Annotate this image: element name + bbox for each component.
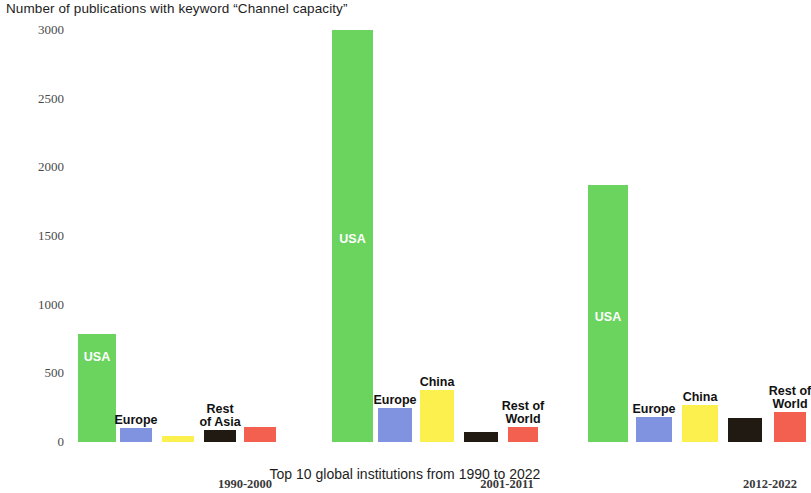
bar-label-europe: Europe xyxy=(373,394,416,407)
y-axis: 0 500 1000 1500 2000 2500 3000 xyxy=(0,30,64,442)
y-tick-500: 500 xyxy=(2,365,64,381)
rest-of-asia-line2: of Asia xyxy=(199,415,240,429)
plot-area: USA Europe Restof Asia 1990-2000 USA Eur… xyxy=(70,30,806,442)
bar-group-1990-2000: USA Europe Restof Asia xyxy=(76,30,266,442)
bar-label-usa: USA xyxy=(339,233,365,246)
bar-label-usa: USA xyxy=(84,351,110,364)
bar-label-europe: Europe xyxy=(114,414,157,427)
bar-group-2012-2022: USA Europe China Rest ofWorld xyxy=(588,30,798,442)
bar-china-2012-2022[interactable]: China xyxy=(682,405,718,442)
bar-rest-of-world-1990-2000[interactable] xyxy=(244,427,276,442)
chart-title: Number of publications with keyword “Cha… xyxy=(6,1,348,16)
bar-rest-of-asia-1990-2000[interactable]: Restof Asia xyxy=(204,430,236,442)
bar-europe-2012-2022[interactable]: Europe xyxy=(636,417,672,442)
bar-label-china: China xyxy=(420,376,455,389)
y-tick-2500: 2500 xyxy=(2,91,64,107)
bar-europe-1990-2000[interactable]: Europe xyxy=(120,428,152,442)
rest-of-world-line2: World xyxy=(505,412,540,426)
y-tick-1500: 1500 xyxy=(2,228,64,244)
bar-china-2001-2011[interactable]: China xyxy=(420,390,454,442)
bar-europe-2001-2011[interactable]: Europe xyxy=(378,408,412,442)
bar-rest-of-asia-2012-2022[interactable] xyxy=(728,418,762,442)
bar-rest-of-world-2001-2011[interactable]: Rest ofWorld xyxy=(508,427,538,442)
bar-label-rest-of-world: Rest ofWorld xyxy=(502,400,544,426)
bar-label-rest-of-asia: Restof Asia xyxy=(199,403,240,429)
bar-china-1990-2000[interactable] xyxy=(162,436,194,442)
x-axis-title: Top 10 global institutions from 1990 to … xyxy=(0,466,810,482)
rest-of-world-line2: World xyxy=(772,397,807,411)
rest-of-world-line1: Rest of xyxy=(502,399,544,413)
bar-usa-2001-2011[interactable]: USA xyxy=(332,30,373,442)
bar-label-china: China xyxy=(683,391,718,404)
bar-label-usa: USA xyxy=(595,311,621,324)
bar-usa-1990-2000[interactable]: USA xyxy=(78,334,116,443)
bar-usa-2012-2022[interactable]: USA xyxy=(588,185,628,443)
y-tick-2000: 2000 xyxy=(2,159,64,175)
bar-rest-of-asia-2001-2011[interactable] xyxy=(464,432,498,442)
bar-group-2001-2011: USA Europe China Rest ofWorld xyxy=(332,30,532,442)
bar-label-rest-of-world: Rest ofWorld xyxy=(769,385,811,411)
bar-rest-of-world-2012-2022[interactable]: Rest ofWorld xyxy=(774,412,806,442)
rest-of-world-line1: Rest of xyxy=(769,384,811,398)
y-tick-1000: 1000 xyxy=(2,297,64,313)
bar-label-europe: Europe xyxy=(632,403,675,416)
rest-of-asia-line1: Rest xyxy=(206,402,233,416)
y-tick-0: 0 xyxy=(2,434,64,450)
y-tick-3000: 3000 xyxy=(2,22,64,38)
